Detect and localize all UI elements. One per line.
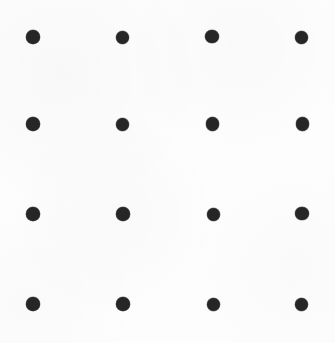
dot-r1-c1 [26, 30, 40, 44]
dot-r2-c1 [26, 117, 40, 131]
dot-r3-c3 [207, 208, 220, 221]
dot-r3-c2 [116, 207, 130, 221]
dot-r2-c2 [116, 118, 129, 131]
dot-r1-c3 [205, 30, 219, 44]
dot-r4-c3 [207, 298, 220, 311]
dot-r2-c3 [206, 117, 220, 131]
dot-r1-c2 [116, 31, 129, 44]
dot-r4-c2 [116, 297, 130, 311]
dot-r2-c4 [296, 117, 310, 131]
dot-r1-c4 [295, 31, 308, 44]
dot-r4-c1 [26, 297, 40, 311]
dot-r4-c4 [295, 298, 308, 311]
dot-grid-canvas: A 4 by 4 square grid of solid dark circu… [0, 0, 335, 343]
dot-r3-c1 [26, 207, 40, 221]
dot-r3-c4 [295, 207, 309, 221]
